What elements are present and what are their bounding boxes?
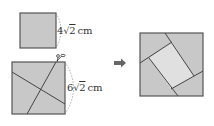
- unit: cm: [78, 25, 93, 36]
- small-square-side-label: 4√2cm: [57, 26, 93, 36]
- small-square: [20, 13, 56, 48]
- radicand: 2: [79, 82, 85, 93]
- diagram-canvas: [0, 0, 214, 126]
- unit: cm: [88, 82, 103, 93]
- right-arrow-icon: [114, 59, 126, 68]
- radicand: 2: [69, 25, 75, 36]
- large-square-side-label: 6√2cm: [67, 83, 103, 93]
- scissors-icon: [57, 54, 65, 62]
